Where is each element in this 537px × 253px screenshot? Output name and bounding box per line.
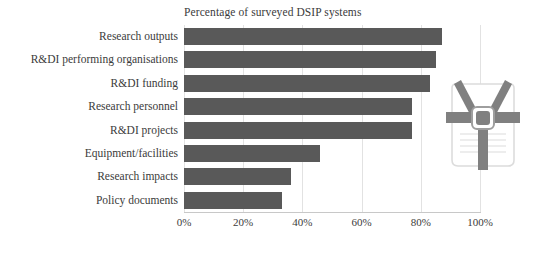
x-tick-label: 60% bbox=[332, 216, 392, 228]
chart-title: Percentage of surveyed DSIP systems bbox=[184, 6, 484, 18]
category-label: Research personnel bbox=[0, 95, 178, 118]
category-label: R&DI funding bbox=[0, 72, 178, 95]
x-tick-label: 40% bbox=[272, 216, 332, 228]
category-label: R&DI projects bbox=[0, 119, 178, 142]
x-tick-label: 80% bbox=[391, 216, 451, 228]
category-label: Research outputs bbox=[0, 25, 178, 48]
x-tick-label: 100% bbox=[450, 216, 510, 228]
category-label: Policy documents bbox=[0, 189, 178, 212]
x-tick-label: 0% bbox=[154, 216, 214, 228]
backpack-harness-icon bbox=[444, 74, 522, 174]
category-label: Research impacts bbox=[0, 165, 178, 188]
category-label: Equipment/facilities bbox=[0, 142, 178, 165]
category-label: R&DI performing organisations bbox=[0, 48, 178, 71]
x-axis-line bbox=[184, 212, 481, 213]
chart-figure: Percentage of surveyed DSIP systems Rese… bbox=[0, 0, 537, 253]
x-tick-label: 20% bbox=[213, 216, 273, 228]
x-axis-tick-labels: 0%20%40%60%80%100% bbox=[0, 216, 537, 236]
